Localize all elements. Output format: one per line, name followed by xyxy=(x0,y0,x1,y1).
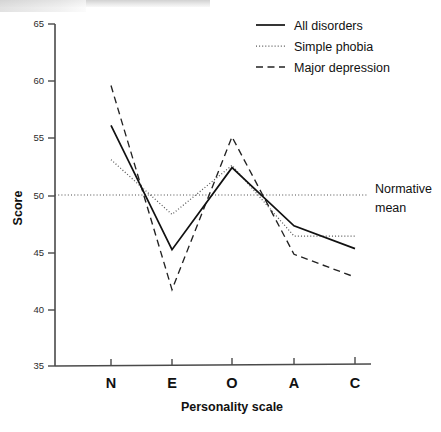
normative-mean-label-line1: Normative xyxy=(375,182,432,196)
x-axis-line xyxy=(55,364,371,366)
normative-mean-annotation: Normative mean xyxy=(375,182,432,215)
y-tick-label-35: 35 xyxy=(33,360,44,371)
y-axis: 65 60 55 50 45 40 35 Score xyxy=(11,18,55,371)
normative-mean-label-line2: mean xyxy=(375,201,406,215)
legend-label-all-disorders: All disorders xyxy=(294,19,363,33)
y-axis-title: Score xyxy=(11,191,25,226)
y-tick-label-45: 45 xyxy=(33,247,44,258)
chart-figure: 65 60 55 50 45 40 35 Score N E O A C Per… xyxy=(0,0,441,432)
x-tick-label-e: E xyxy=(167,375,177,391)
legend-label-major-depression: Major depression xyxy=(294,61,390,75)
series-line-all-disorders xyxy=(111,125,355,249)
series-line-major-depression xyxy=(111,86,355,290)
x-tick-label-o: O xyxy=(226,375,237,391)
legend-label-simple-phobia: Simple phobia xyxy=(294,40,373,54)
y-tick-label-55: 55 xyxy=(33,132,44,143)
chart-legend: All disorders Simple phobia Major depres… xyxy=(256,19,390,75)
x-axis: N E O A C Personality scale xyxy=(55,357,371,414)
y-tick-label-40: 40 xyxy=(33,304,44,315)
y-tick-label-65: 65 xyxy=(33,18,44,29)
y-tick-label-50: 50 xyxy=(33,190,44,201)
series-line-simple-phobia xyxy=(111,160,355,236)
x-tick-label-c: C xyxy=(350,375,361,391)
y-tick-label-60: 60 xyxy=(33,75,44,86)
x-tick-label-a: A xyxy=(289,375,300,391)
x-axis-title: Personality scale xyxy=(181,400,283,414)
line-chart-plot: 65 60 55 50 45 40 35 Score N E O A C Per… xyxy=(0,0,441,432)
x-tick-label-n: N xyxy=(106,375,116,391)
